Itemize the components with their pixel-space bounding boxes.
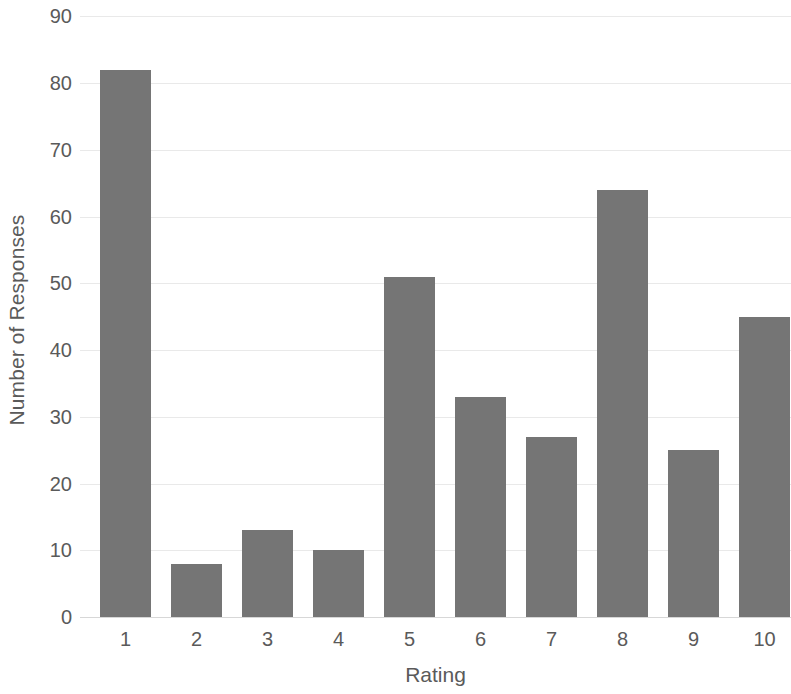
y-axis-tick-label: 60 (34, 207, 72, 227)
x-axis-tick-label: 8 (597, 626, 648, 652)
y-axis-title-text: Number of Responses (5, 215, 29, 426)
y-axis-tick-label: 30 (34, 407, 72, 427)
x-axis-tick-label: 9 (668, 626, 719, 652)
y-axis-tick-label: 0 (34, 607, 72, 627)
x-axis-tick-label: 7 (526, 626, 577, 652)
x-axis-tick-label: 1 (100, 626, 151, 652)
bar (171, 564, 222, 617)
bar (455, 397, 506, 617)
x-axis-title: Rating (80, 662, 791, 688)
bar-chart: Number of Responses 0102030405060708090 … (0, 0, 791, 694)
x-axis-tick-label: 4 (313, 626, 364, 652)
x-axis-tick-label: 5 (384, 626, 435, 652)
bar (384, 277, 435, 617)
gridline (80, 350, 791, 351)
y-axis-tick-label: 70 (34, 140, 72, 160)
y-axis-tick-labels: 0102030405060708090 (34, 0, 72, 694)
bar (526, 437, 577, 617)
x-axis-tick-label: 3 (242, 626, 293, 652)
axis-baseline (80, 617, 791, 618)
x-axis-tick-label: 2 (171, 626, 222, 652)
y-axis-tick-label: 50 (34, 273, 72, 293)
x-axis-tick-labels: 12345678910 (0, 626, 791, 656)
y-axis-tick-label: 20 (34, 474, 72, 494)
y-axis-tick-label: 40 (34, 340, 72, 360)
x-axis-tick-label: 6 (455, 626, 506, 652)
gridline (80, 417, 791, 418)
gridline (80, 83, 791, 84)
bar (668, 450, 719, 617)
plot-area (80, 0, 791, 694)
y-axis-tick-label: 10 (34, 540, 72, 560)
y-axis-tick-label: 90 (34, 6, 72, 26)
y-axis-tick-label: 80 (34, 73, 72, 93)
bar (100, 70, 151, 617)
gridline (80, 16, 791, 17)
gridline (80, 283, 791, 284)
gridline (80, 217, 791, 218)
bar (739, 317, 790, 617)
gridline (80, 150, 791, 151)
bar (242, 530, 293, 617)
bar (597, 190, 648, 617)
y-axis-title: Number of Responses (0, 0, 34, 640)
bar (313, 550, 364, 617)
x-axis-tick-label: 10 (739, 626, 790, 652)
